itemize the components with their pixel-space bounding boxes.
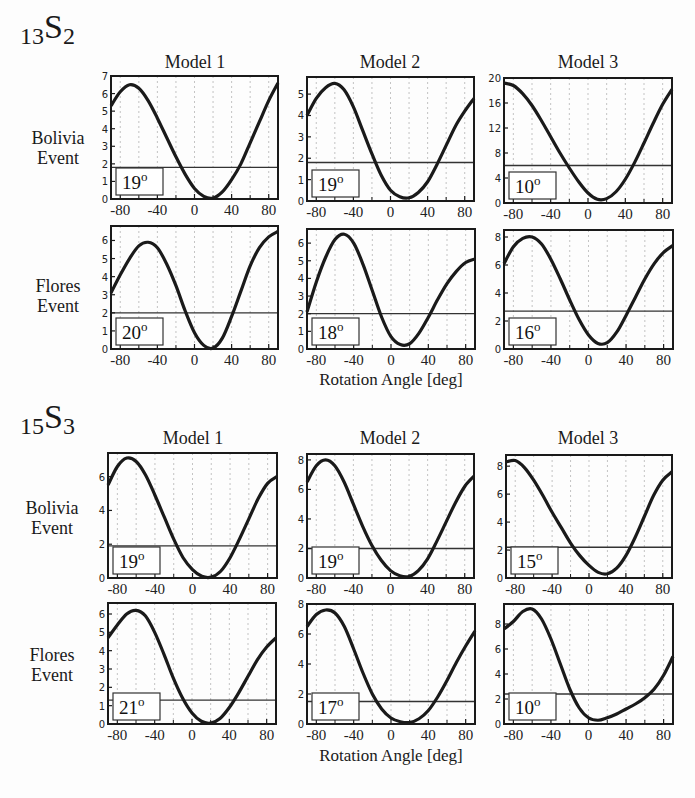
y-tick-label: 4 xyxy=(298,514,304,525)
y-tick-label: 8 xyxy=(495,619,501,630)
x-tick-label: -40 xyxy=(145,727,165,743)
x-tick-label: -80 xyxy=(110,352,130,368)
y-tick-label: 0 xyxy=(497,573,503,584)
x-tick-label: 0 xyxy=(585,581,593,597)
y-tick-label: 4 xyxy=(99,646,105,657)
y-tick-label: 6 xyxy=(99,472,105,483)
y-tick-label: 0 xyxy=(298,196,304,207)
x-tick-label: 80 xyxy=(261,352,276,368)
x-tick-label: -80 xyxy=(306,352,326,368)
x-tick-label: -40 xyxy=(343,581,363,597)
y-tick-label: 0 xyxy=(99,719,105,730)
x-tick-label: -40 xyxy=(541,352,561,368)
y-tick-label: 4 xyxy=(497,517,503,528)
y-tick-label: 6 xyxy=(102,89,108,100)
line-plot: -80-40040800246815o xyxy=(497,455,672,597)
y-tick-label: 0 xyxy=(102,344,108,355)
y-tick-label: 2 xyxy=(298,153,304,164)
y-tick-label: 0 xyxy=(495,719,501,730)
y-tick-label: 6 xyxy=(298,629,304,640)
y-tick-label: 0 xyxy=(102,194,108,205)
x-tick-label: 80 xyxy=(458,352,473,368)
x-tick-label: 40 xyxy=(619,727,634,743)
y-tick-label: 8 xyxy=(298,599,304,610)
y-tick-label: 4 xyxy=(298,659,304,670)
x-tick-label: -40 xyxy=(344,352,364,368)
line-plot: -80-4004080012345618o xyxy=(298,229,475,368)
y-tick-label: 4 xyxy=(495,669,501,680)
x-tick-label: 80 xyxy=(655,581,670,597)
x-tick-label: -40 xyxy=(541,206,561,222)
x-tick-label: 80 xyxy=(656,352,671,368)
y-tick-label: 5 xyxy=(298,256,304,267)
y-tick-label: 2 xyxy=(495,316,501,327)
x-tick-label: 0 xyxy=(585,352,593,368)
x-tick-label: 40 xyxy=(421,352,436,368)
y-tick-label: 6 xyxy=(495,260,501,271)
y-tick-label: 6 xyxy=(298,484,304,495)
x-tick-label: -40 xyxy=(147,202,167,218)
y-tick-label: 1 xyxy=(99,701,105,712)
x-tick-label: -40 xyxy=(344,727,364,743)
line-plot: -80-4004080012345620o xyxy=(102,226,278,368)
y-tick-label: 3 xyxy=(102,141,108,152)
x-tick-label: -40 xyxy=(542,581,562,597)
x-tick-label: 80 xyxy=(260,581,275,597)
line-plot: -80-40040800123456719o xyxy=(102,71,278,218)
y-tick-label: 0 xyxy=(298,573,304,584)
x-tick-label: 40 xyxy=(223,581,238,597)
x-tick-label: 40 xyxy=(618,581,633,597)
y-tick-label: 2 xyxy=(99,539,105,550)
x-tick-label: 80 xyxy=(261,202,276,218)
y-tick-label: 2 xyxy=(497,545,503,556)
y-tick-label: 4 xyxy=(495,173,501,184)
x-tick-label: -80 xyxy=(107,727,127,743)
y-tick-label: 0 xyxy=(495,198,501,209)
y-tick-label: 0 xyxy=(495,344,501,355)
y-tick-label: 8 xyxy=(497,461,503,472)
y-tick-label: 3 xyxy=(298,291,304,302)
y-tick-label: 4 xyxy=(298,273,304,284)
line-plot: -80-4004080024619o xyxy=(99,453,277,597)
y-tick-label: 6 xyxy=(298,238,304,249)
line-plot: -80-40040800246819o xyxy=(298,454,474,597)
x-tick-label: -80 xyxy=(503,352,523,368)
y-tick-label: 4 xyxy=(102,272,108,283)
y-tick-label: 1 xyxy=(102,176,108,187)
x-tick-label: 40 xyxy=(224,352,239,368)
y-tick-label: 20 xyxy=(488,73,501,84)
x-tick-label: 80 xyxy=(656,727,671,743)
line-plot: -80-400408001234519o xyxy=(298,77,474,220)
y-tick-label: 8 xyxy=(495,232,501,243)
x-tick-label: -80 xyxy=(306,581,326,597)
y-tick-label: 2 xyxy=(298,689,304,700)
x-tick-label: 80 xyxy=(655,206,670,222)
line-plot: -80-40040800246810o xyxy=(495,604,673,743)
x-tick-label: -40 xyxy=(343,204,363,220)
y-tick-label: 6 xyxy=(102,235,108,246)
y-tick-label: 2 xyxy=(298,543,304,554)
y-tick-label: 0 xyxy=(298,344,304,355)
y-tick-label: 4 xyxy=(99,505,105,516)
x-tick-label: 0 xyxy=(189,581,197,597)
y-tick-label: 0 xyxy=(298,719,304,730)
y-tick-label: 6 xyxy=(497,489,503,500)
y-tick-label: 3 xyxy=(298,132,304,143)
x-tick-label: 40 xyxy=(224,202,239,218)
x-tick-label: 0 xyxy=(387,727,395,743)
y-tick-label: 6 xyxy=(99,609,105,620)
x-tick-label: 40 xyxy=(618,206,633,222)
y-tick-label: 16 xyxy=(488,98,501,109)
line-plot: -80-40040800246816o xyxy=(495,230,673,368)
x-tick-label: -80 xyxy=(306,204,326,220)
y-tick-label: 0 xyxy=(99,573,105,584)
y-tick-label: 8 xyxy=(298,455,304,466)
y-tick-label: 5 xyxy=(102,254,108,265)
y-tick-label: 2 xyxy=(298,309,304,320)
plots-canvas: -80-40040800123456719o-80-40040800123451… xyxy=(0,0,695,798)
y-tick-label: 2 xyxy=(495,694,501,705)
x-tick-label: 80 xyxy=(457,204,472,220)
y-tick-label: 12 xyxy=(488,123,501,134)
y-tick-label: 2 xyxy=(99,682,105,693)
x-tick-label: 40 xyxy=(222,727,237,743)
